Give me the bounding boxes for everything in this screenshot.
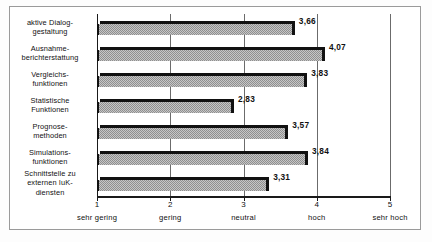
bar[interactable] (97, 47, 325, 61)
bar-value-label: 3,84 (312, 146, 329, 156)
category-label-line: funktionen (32, 157, 67, 166)
bar[interactable] (97, 177, 269, 191)
x-tick-number: 4 (315, 200, 319, 209)
bar-top-edge (100, 151, 305, 154)
bar-value-label: 3,57 (292, 120, 309, 130)
category-label-line: externen IuK- (27, 178, 73, 187)
x-tick-number: 3 (241, 200, 245, 209)
bar-row: Simulations-funktionen3,84 (0, 144, 432, 170)
bar-fill (97, 24, 292, 35)
x-tick-word: gering (159, 213, 181, 222)
bar[interactable] (97, 125, 288, 139)
category-label-line: aktive Dialog- (27, 18, 73, 27)
bar-fill (97, 154, 305, 165)
bar-top-edge (100, 47, 322, 50)
bar-row: Schnittstelle zuexternen IuK-diensten3,3… (0, 170, 432, 196)
category-label-line: Simulations- (29, 148, 71, 157)
bar[interactable] (97, 99, 234, 113)
bar-end-cap (285, 125, 288, 139)
x-tick-word: sehr hoch (372, 213, 407, 222)
category-label: StatistischeFunktionen (8, 92, 92, 118)
bar-top-edge (100, 21, 292, 24)
bar-row: aktive Dialog-gestaltung3,66 (0, 14, 432, 40)
x-tick-number: 1 (95, 200, 99, 209)
category-label: Ausnahme-berichterstattung (8, 40, 92, 66)
category-label-line: Ausnahme- (31, 44, 70, 53)
bar-end-cap (305, 151, 308, 165)
figure: aktive Dialog-gestaltung3,66Ausnahme-ber… (0, 0, 432, 242)
category-label: Prognose-methoden (8, 118, 92, 144)
bar-value-label: 2,83 (238, 94, 255, 104)
category-label: Simulations-funktionen (8, 144, 92, 170)
bar-row: Vergleichs-funktionen3,83 (0, 66, 432, 92)
bar-end-cap (231, 99, 234, 113)
bar-top-edge (100, 99, 231, 102)
category-label: aktive Dialog-gestaltung (8, 14, 92, 40)
category-label-line: funktionen (32, 79, 67, 88)
bar-value-label: 3,83 (311, 68, 328, 78)
category-label: Vergleichs-funktionen (8, 66, 92, 92)
bar-fill (97, 50, 322, 61)
bar-top-edge (100, 177, 266, 180)
bar-end-cap (266, 177, 269, 191)
bar[interactable] (97, 21, 295, 35)
bar[interactable] (97, 73, 307, 87)
bar-value-label: 3,31 (273, 172, 290, 182)
bar-end-cap (292, 21, 295, 35)
bar-end-cap (322, 47, 325, 61)
category-label-line: methoden (33, 131, 67, 140)
bar-row: Ausnahme-berichterstattung4,07 (0, 40, 432, 66)
bar-fill (97, 128, 285, 139)
category-label: Schnittstelle zuexternen IuK-diensten (8, 170, 92, 196)
x-tick-word: hoch (308, 213, 325, 222)
category-label-line: diensten (36, 188, 65, 197)
category-label-line: Funktionen (31, 105, 69, 114)
bar-row: Prognose-methoden3,57 (0, 118, 432, 144)
bar-value-label: 4,07 (329, 42, 346, 52)
bar-top-edge (100, 73, 304, 76)
bar-value-label: 3,66 (299, 16, 316, 26)
category-label-line: Schnittstelle zu (24, 169, 75, 178)
bar-row: StatistischeFunktionen2,83 (0, 92, 432, 118)
bar-top-edge (100, 125, 285, 128)
category-label-line: Prognose- (33, 122, 68, 131)
bar-end-cap (304, 73, 307, 87)
x-tick-number: 2 (168, 200, 172, 209)
bar-fill (97, 102, 231, 113)
bar-rows: aktive Dialog-gestaltung3,66Ausnahme-ber… (0, 14, 432, 196)
x-tick-word: sehr gering (77, 213, 117, 222)
bar-fill (97, 76, 304, 87)
bar-fill (97, 180, 266, 191)
bar[interactable] (97, 151, 308, 165)
category-label-line: Vergleichs- (31, 70, 69, 79)
category-label-line: gestaltung (32, 27, 67, 36)
x-tick-number: 5 (388, 200, 392, 209)
category-label-line: berichterstattung (22, 53, 79, 62)
category-label-line: Statistische (31, 96, 70, 105)
x-tick-word: neutral (231, 213, 256, 222)
